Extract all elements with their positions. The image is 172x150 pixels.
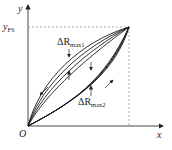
delta-r-max2-prefix: ΔR <box>78 96 91 107</box>
delta-r-max1-label: ΔRmax1 <box>57 37 85 47</box>
delta-r-max2-sub: max2 <box>91 101 105 108</box>
loading-direction-arrow <box>105 80 113 88</box>
delta-r-max2-label: ΔRmax2 <box>78 97 106 107</box>
origin-label: O <box>19 129 26 139</box>
y-axis-label: y <box>18 4 22 14</box>
x-axis-label: x <box>157 130 161 140</box>
y-fs-sub: FS <box>7 26 14 33</box>
y-fs-label: yFS <box>3 22 15 32</box>
delta-r-max1-prefix: ΔR <box>57 36 70 47</box>
delta-r-max1-sub: max1 <box>70 41 84 48</box>
hysteresis-diagram: y yFS O x ΔRmax1 ΔRmax2 <box>0 0 172 150</box>
